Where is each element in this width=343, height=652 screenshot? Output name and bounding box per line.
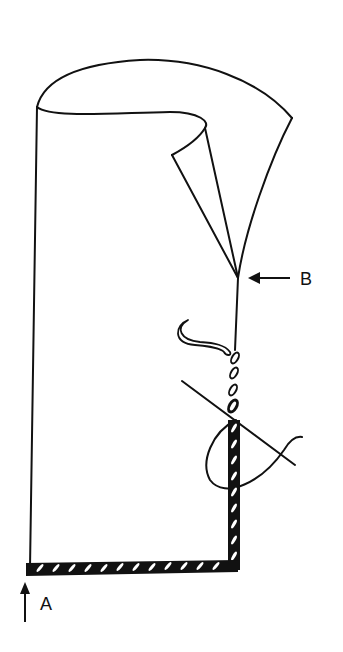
fold-flap-right — [238, 118, 292, 278]
bottom-edge-stitches — [26, 560, 238, 576]
right-edge-stitches — [225, 350, 242, 570]
label-a-pointer: A — [20, 582, 52, 622]
thread-tail — [178, 320, 230, 355]
label-a: A — [40, 594, 52, 614]
arrow-left-icon — [248, 272, 260, 284]
thread-loop — [206, 420, 302, 488]
fold-flap-left — [172, 155, 238, 278]
stitch-diagram: B A — [0, 0, 343, 652]
label-b-pointer: B — [248, 269, 312, 289]
fabric-top-fold — [37, 60, 292, 118]
fold-flap-mid — [205, 128, 238, 278]
fabric-inner-fold — [37, 107, 206, 155]
label-b: B — [300, 269, 312, 289]
arrow-up-icon — [20, 582, 30, 594]
seam-line — [235, 278, 238, 350]
fabric-left-edge — [30, 107, 37, 568]
